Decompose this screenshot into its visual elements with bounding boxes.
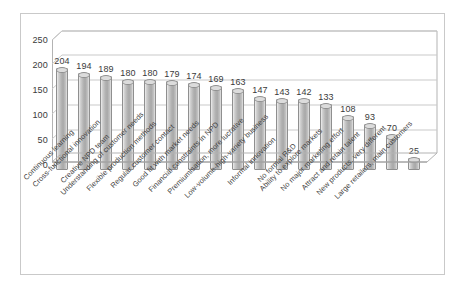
bar-value-label: 25: [409, 147, 419, 156]
bar-value-label: 169: [208, 75, 224, 84]
bar-cap: [364, 123, 376, 129]
bar-value-label: 147: [252, 86, 268, 95]
bar-value-label: 174: [186, 72, 202, 81]
bar[interactable]: [408, 158, 420, 171]
bar-cap: [320, 103, 332, 109]
bar-value-label: 93: [365, 113, 375, 122]
bar-value-label: 194: [76, 62, 92, 71]
bar-value-label: 189: [98, 65, 114, 74]
bar-cap: [210, 85, 222, 91]
bar-value-label: 180: [120, 69, 136, 78]
bar-value-label: 133: [318, 93, 334, 102]
bar-cap: [254, 96, 266, 102]
bar-value-label: 180: [142, 69, 158, 78]
y-axis: 250 200 150 100 50 0: [14, 0, 48, 290]
bar-value-label: 163: [230, 78, 246, 87]
bar-cap: [232, 88, 244, 94]
y-tick-label: 150: [32, 86, 48, 95]
y-tick-label: 200: [32, 61, 48, 70]
bar-cap: [408, 157, 420, 163]
y-tick-label: 100: [32, 111, 48, 120]
bar-value-label: 108: [340, 105, 356, 114]
bar-cap: [188, 82, 200, 88]
bar-slot: 25: [408, 40, 420, 170]
bar-cap: [342, 115, 354, 121]
y-tick-label: 250: [32, 36, 48, 45]
chart-container: 250 200 150 100 50 0: [0, 0, 459, 290]
bar-cap: [144, 79, 156, 85]
bar-cap: [78, 72, 90, 78]
bar-cap: [166, 80, 178, 86]
bar-cap: [298, 98, 310, 104]
bar-value-label: 179: [164, 70, 180, 79]
bar-value-label: 143: [274, 88, 290, 97]
bar-cap: [100, 75, 112, 81]
bar-value-label: 204: [54, 57, 70, 66]
bar-cap: [276, 98, 288, 104]
bar-cap: [56, 67, 68, 73]
bar-value-label: 142: [296, 88, 312, 97]
y-tick-label: 50: [38, 136, 48, 145]
bar-cap: [122, 79, 134, 85]
